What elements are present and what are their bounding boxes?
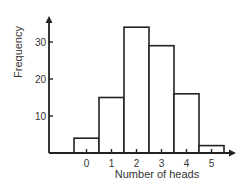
x-axis-label: Number of heads — [115, 168, 200, 180]
y-axis-arrow-icon — [46, 16, 53, 23]
x-axis-arrow-icon — [229, 150, 236, 157]
y-tick-label: 10 — [35, 111, 47, 122]
bar-2 — [124, 27, 149, 153]
bar-4 — [174, 94, 199, 153]
bars — [74, 27, 224, 153]
y-tick-label: 30 — [35, 37, 47, 48]
y-axis-label: Frequency — [12, 26, 24, 78]
x-tick-label: 0 — [84, 158, 90, 169]
bar-1 — [99, 98, 124, 154]
x-tick-label: 5 — [209, 158, 215, 169]
bar-3 — [149, 46, 174, 153]
histogram-chart: 102030012345Number of headsFrequency — [0, 0, 246, 189]
y-tick-label: 20 — [35, 74, 47, 85]
